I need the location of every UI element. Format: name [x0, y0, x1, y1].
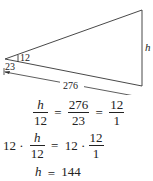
equation-line-3: h = 144 — [35, 165, 81, 180]
label-12: 12 — [20, 52, 30, 63]
similar-triangles-diagram: h 12 23 276 — [0, 0, 153, 95]
fraction-12-over-1: 12 1 — [109, 98, 124, 127]
fraction-12-over-1: 12 1 — [89, 131, 104, 160]
fraction-276-over-23: 276 23 — [68, 98, 90, 127]
fraction-h-over-12: h 12 — [33, 98, 48, 127]
label-h: h — [145, 41, 151, 53]
label-276: 276 — [63, 80, 78, 91]
equation-line-1: h 12 = 276 23 = 12 1 — [33, 98, 124, 127]
label-23: 23 — [5, 61, 15, 72]
equation-line-2: 12 · h 12 = 12 · 12 1 — [3, 131, 104, 160]
fraction-h-over-12: h 12 — [30, 131, 45, 160]
